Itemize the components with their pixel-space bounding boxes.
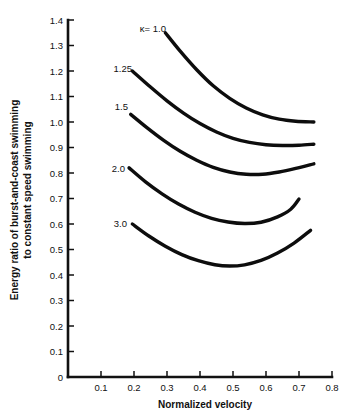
y-tick-label-0.7: 0.7 xyxy=(50,193,63,204)
series-label-kappa-3.0: 3.0 xyxy=(114,218,127,229)
y-tick-label-0.5: 0.5 xyxy=(50,244,63,255)
x-tick-label-0.1: 0.1 xyxy=(94,382,107,393)
x-axis-tick-labels: 0.1 0.2 0.3 0.4 0.5 0.6 0.7 0.8 xyxy=(94,382,338,393)
x-tick-label-0.7: 0.7 xyxy=(292,382,305,393)
y-tick-label-0: 0 xyxy=(58,372,63,383)
curve-kappa-1.0 xyxy=(165,33,314,122)
y-tick-label-0.9: 0.9 xyxy=(50,142,63,153)
series-labels-group: κ= 1.0 1.25 1.5 2.0 3.0 xyxy=(112,23,166,229)
y-tick-label-1.2: 1.2 xyxy=(50,66,63,77)
series-label-kappa-1.25: 1.25 xyxy=(114,63,133,74)
x-tick-label-0.8: 0.8 xyxy=(325,382,338,393)
series-label-kappa-1.0: κ= 1.0 xyxy=(140,23,166,34)
y-tick-label-1.4: 1.4 xyxy=(50,15,63,26)
y-tick-label-1.1: 1.1 xyxy=(50,91,63,102)
y-tick-label-0.8: 0.8 xyxy=(50,168,63,179)
x-tick-label-0.5: 0.5 xyxy=(226,382,239,393)
y-axis-title-line1: Energy ratio of burst-and-coast swimming xyxy=(9,100,20,301)
y-tick-label-0.4: 0.4 xyxy=(50,270,63,281)
y-tick-label-0.6: 0.6 xyxy=(50,219,63,230)
y-axis-tick-labels: 1.4 1.3 1.2 1.1 1.0 0.9 0.8 0.7 0.6 0.5 … xyxy=(50,15,63,383)
y-tick-label-0.3: 0.3 xyxy=(50,295,63,306)
y-tick-label-0.2: 0.2 xyxy=(50,321,63,332)
y-axis-title-line2: to constant speed swimming xyxy=(22,121,33,258)
chart-figure: Energy ratio of burst-and-coast swimming… xyxy=(0,0,350,418)
series-label-kappa-1.5: 1.5 xyxy=(115,101,128,112)
curve-kappa-1.25 xyxy=(132,71,314,145)
x-tick-label-0.3: 0.3 xyxy=(160,382,173,393)
y-tick-label-1.3: 1.3 xyxy=(50,40,63,51)
x-tick-label-0.6: 0.6 xyxy=(259,382,272,393)
series-label-kappa-2.0: 2.0 xyxy=(112,163,125,174)
y-tick-label-1.0: 1.0 xyxy=(50,117,63,128)
curve-kappa-2.0 xyxy=(129,168,299,224)
line-chart: Energy ratio of burst-and-coast swimming… xyxy=(0,0,350,418)
x-tick-label-0.4: 0.4 xyxy=(193,382,206,393)
y-tick-label-0.1: 0.1 xyxy=(50,346,63,357)
x-tick-label-0.2: 0.2 xyxy=(127,382,140,393)
curve-kappa-3.0 xyxy=(132,224,310,266)
x-axis-title: Normalized velocity xyxy=(158,399,252,410)
curves-group xyxy=(129,33,314,266)
